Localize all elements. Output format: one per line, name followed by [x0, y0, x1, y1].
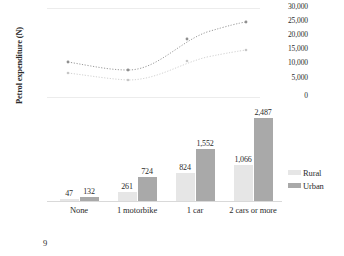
- line-lower-path: [68, 50, 246, 80]
- bar-urban[interactable]: 2,487: [254, 118, 273, 201]
- bar-value-label: 261: [121, 182, 132, 191]
- bar-group-2-cars-or-more: 1,066 2,487: [227, 115, 279, 201]
- legend-item-urban[interactable]: Urban: [288, 179, 324, 192]
- line-lower-marker: [127, 79, 130, 82]
- legend-swatch-icon: [288, 170, 301, 175]
- bar-value-label: 824: [179, 163, 190, 172]
- category-label: 2 cars or more: [219, 205, 287, 216]
- right-tick: 10,000: [288, 59, 308, 67]
- category-label: 1 car: [169, 205, 221, 216]
- legend-label: Urban: [303, 181, 324, 191]
- left-axis-title: Petrol expenditure (N): [13, 0, 27, 104]
- bar-value-label: 132: [83, 187, 94, 196]
- line-lower-marker: [245, 49, 248, 52]
- category-label: 1 motorbike: [104, 205, 170, 216]
- right-tick: 25,000: [288, 17, 308, 25]
- bar-group-1-motorbike: 261 724: [111, 115, 163, 201]
- bar-value-label: 1,552: [196, 139, 213, 148]
- bar-value-label: 2,487: [254, 108, 271, 117]
- right-axis-title-line1: Aggregate: [305, 0, 314, 2]
- legend-label: Rural: [303, 168, 321, 178]
- chart-legend: Rural Urban: [288, 166, 324, 192]
- bar-value-label: 1,066: [234, 155, 251, 164]
- right-axis-title-line2: consumption (N): [314, 0, 323, 2]
- bar-rural[interactable]: 1,066: [234, 165, 253, 201]
- line-lower-marker: [67, 72, 70, 75]
- line-series-plot: [47, 4, 260, 101]
- line-upper-marker: [245, 21, 248, 24]
- legend-item-rural[interactable]: Rural: [288, 166, 324, 179]
- bar-rural[interactable]: 824: [176, 173, 195, 201]
- line-upper-marker: [186, 38, 189, 41]
- bar-urban[interactable]: 1,552: [196, 149, 215, 201]
- page-number: 9: [43, 238, 47, 248]
- line-upper-marker: [127, 69, 130, 72]
- category-label: None: [53, 205, 105, 216]
- combo-chart-figure: 30,000 25,000 20,000 15,000 10,000 5,000…: [0, 0, 344, 256]
- bar-value-label: 47: [65, 189, 73, 198]
- bar-urban[interactable]: 724: [138, 177, 157, 201]
- right-tick: 15,000: [288, 45, 308, 53]
- bar-value-label: 724: [141, 167, 152, 176]
- legend-swatch-icon: [288, 183, 301, 188]
- bar-urban[interactable]: 132: [80, 197, 99, 201]
- category-axis: None 1 motorbike 1 car 2 cars or more: [47, 205, 282, 219]
- bar-group-1-car: 824 1,552: [169, 115, 221, 201]
- bar-rural[interactable]: 47: [60, 199, 79, 201]
- bar-rural[interactable]: 261: [118, 192, 137, 201]
- right-tick: 20,000: [288, 31, 308, 39]
- right-axis-title: Aggregate consumption (N): [305, 0, 341, 2]
- right-tick: 30,000: [288, 3, 308, 11]
- line-chart-panel: [47, 4, 260, 101]
- line-lower-marker: [186, 60, 189, 63]
- bar-group-none: 47 132: [53, 115, 105, 201]
- bar-baseline: [47, 201, 282, 202]
- line-upper-marker: [67, 61, 70, 64]
- right-tick: 5,000: [292, 74, 308, 82]
- right-tick: 0: [304, 92, 308, 100]
- bar-chart-panel: 47 132 261 724 824 1,552 1,066: [47, 112, 282, 202]
- line-upper-path: [68, 22, 246, 70]
- right-value-axis: 30,000 25,000 20,000 15,000 10,000 5,000…: [262, 0, 308, 104]
